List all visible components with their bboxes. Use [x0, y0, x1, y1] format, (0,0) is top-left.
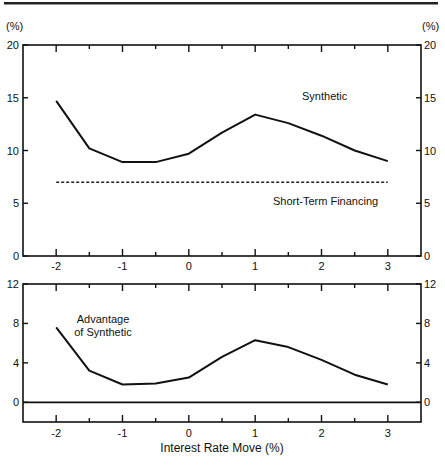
y-tick-label-left: 15 — [7, 92, 19, 104]
top-plot-frame — [23, 45, 421, 256]
x-tick-label: 2 — [318, 427, 324, 439]
top-y-unit-left: (%) — [6, 20, 23, 32]
header-rule — [4, 2, 438, 5]
y-tick-label-right: 4 — [424, 357, 430, 369]
y-tick-label-left: 5 — [13, 197, 19, 209]
y-tick-label-right: 20 — [424, 39, 436, 51]
top-panel: -2-101230055101015152020 Synthetic Short… — [7, 39, 437, 272]
x-tick-label: 0 — [186, 427, 192, 439]
y-tick-label-left: 4 — [13, 357, 19, 369]
x-tick-label: 3 — [385, 427, 391, 439]
x-tick-label: 0 — [186, 260, 192, 272]
y-tick-label-left: 20 — [7, 39, 19, 51]
bottom-axis-ticks: -2-101230044881212 — [7, 278, 437, 439]
y-tick-label-left: 10 — [7, 145, 19, 157]
x-axis-title: Interest Rate Move (%) — [160, 441, 283, 455]
y-tick-label-right: 8 — [424, 317, 430, 329]
y-tick-label-right: 15 — [424, 92, 436, 104]
synthetic-line — [56, 101, 388, 162]
advantage-label-line1: Advantage — [77, 313, 130, 325]
figure: (%) (%) -2-101230055101015152020 Synthet… — [0, 0, 445, 467]
top-y-unit-right: (%) — [422, 20, 439, 32]
y-tick-label-right: 5 — [424, 197, 430, 209]
x-tick-label: -1 — [118, 427, 128, 439]
bottom-plot-frame — [23, 284, 421, 422]
y-tick-label-right: 12 — [424, 278, 436, 290]
y-tick-label-left: 12 — [7, 278, 19, 290]
y-tick-label-left: 0 — [13, 250, 19, 262]
chart-canvas: (%) (%) -2-101230055101015152020 Synthet… — [0, 0, 445, 467]
bottom-panel: -2-101230044881212 Advantage of Syntheti… — [7, 278, 437, 439]
x-tick-label: 1 — [252, 427, 258, 439]
x-tick-label: 1 — [252, 260, 258, 272]
x-tick-label: 2 — [318, 260, 324, 272]
y-tick-label-right: 0 — [424, 250, 430, 262]
y-tick-label-right: 0 — [424, 396, 430, 408]
x-tick-label: -2 — [51, 427, 61, 439]
y-tick-label-left: 8 — [13, 317, 19, 329]
x-tick-label: -1 — [118, 260, 128, 272]
x-tick-label: 3 — [385, 260, 391, 272]
advantage-label-line2: of Synthetic — [74, 326, 132, 338]
x-tick-label: -2 — [51, 260, 61, 272]
y-tick-label-left: 0 — [13, 396, 19, 408]
short-term-financing-label: Short-Term Financing — [273, 195, 378, 207]
synthetic-label: Synthetic — [302, 90, 348, 102]
y-tick-label-right: 10 — [424, 145, 436, 157]
